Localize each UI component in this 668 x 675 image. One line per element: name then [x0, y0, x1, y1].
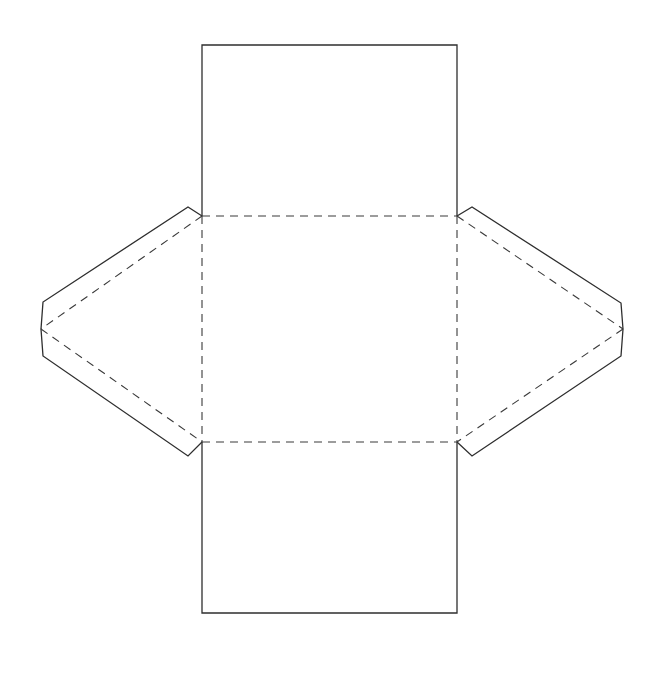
top-panel-outline	[202, 45, 457, 216]
left-flap-upper-fold-line	[41, 216, 202, 329]
bottom-panel-outline	[202, 442, 457, 613]
right-flap-outline	[457, 207, 623, 456]
body	[202, 45, 457, 613]
left-flap-lower-fold-line	[41, 329, 202, 442]
right-flap-upper-fold-line	[457, 216, 623, 329]
right-flap-lower-fold-line	[457, 329, 623, 442]
left-flap-outline	[41, 207, 202, 456]
left-flap	[41, 207, 202, 456]
right-flap	[457, 207, 623, 456]
paper-net-diagram	[0, 0, 668, 675]
